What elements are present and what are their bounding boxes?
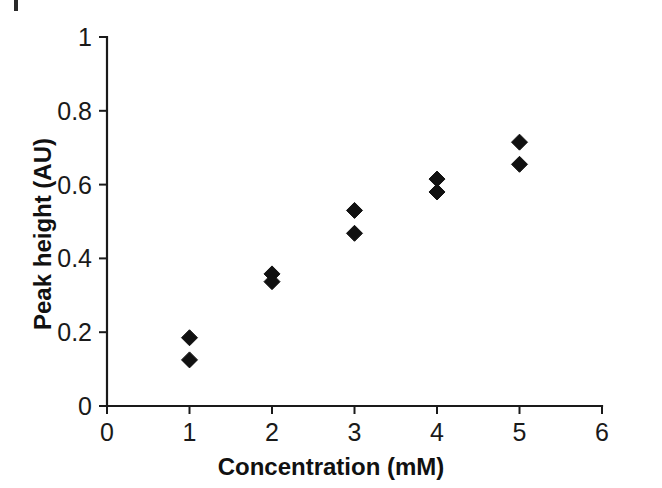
x-tick-label-3: 3 <box>348 420 362 445</box>
data-point-marker <box>182 352 198 368</box>
y-tick-label-5: 1 <box>0 25 92 50</box>
y-tick-label-0: 0 <box>0 394 92 419</box>
data-point-marker <box>512 134 528 150</box>
data-point-marker <box>347 225 363 241</box>
y-axis-title: Peak height (AU) <box>31 138 55 330</box>
scatter-plot-canvas <box>0 0 662 488</box>
x-tick-label-5: 5 <box>513 420 527 445</box>
x-tick-label-4: 4 <box>430 420 444 445</box>
x-tick-label-1: 1 <box>183 420 197 445</box>
data-point-marker <box>347 202 363 218</box>
figure-container: 00.20.40.60.810123456 Concentration (mM)… <box>0 0 662 488</box>
x-tick-label-0: 0 <box>100 420 114 445</box>
y-tick-label-4: 0.8 <box>0 98 92 123</box>
data-point-marker <box>182 330 198 346</box>
x-axis-title: Concentration (mM) <box>0 455 662 479</box>
data-point-marker <box>429 184 445 200</box>
x-tick-label-6: 6 <box>595 420 609 445</box>
data-point-marker <box>512 156 528 172</box>
x-tick-label-2: 2 <box>265 420 279 445</box>
